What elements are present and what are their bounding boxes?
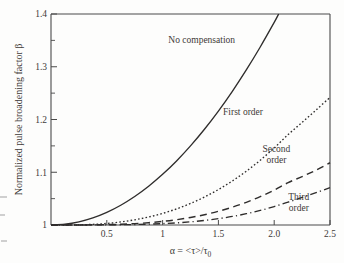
x-axis-title: α = <τ>/τ0: [170, 245, 212, 259]
line-chart: 11.11.21.31.4 0.511.52.02.5 No compensat…: [0, 0, 344, 263]
curve-no-compensation: [51, 14, 279, 225]
tick-label: 1.2: [35, 115, 47, 125]
tick-label: 1: [42, 220, 47, 230]
y-axis-major-ticks: [51, 14, 57, 225]
tick-label: 1.3: [35, 62, 47, 72]
figure-container: 11.11.21.31.4 0.511.52.02.5 No compensat…: [0, 0, 344, 263]
tick-label: 2.0: [268, 229, 280, 239]
curve-label-second-order-line2: order: [266, 155, 287, 165]
y-axis-title: Normalized pulse broadening factor β: [13, 44, 24, 196]
tick-label: 1.4: [35, 9, 47, 19]
curve-label-second-order-line1: Second: [262, 144, 290, 154]
x-axis-title-main: α = <τ>/τ: [170, 245, 208, 256]
tick-label: 0.5: [101, 229, 113, 239]
tick-label: 2.5: [324, 229, 336, 239]
curve-label-third-order-line2: order: [289, 203, 310, 213]
x-axis-tick-labels: 0.511.52.02.5: [101, 229, 336, 239]
curve-label-no-compensation: No compensation: [168, 35, 235, 45]
tick-label: 1.1: [35, 168, 47, 178]
curve-label-third-order-line1: Third: [288, 192, 309, 202]
tick-label: 1: [160, 229, 165, 239]
x-axis-title-subscript: 0: [208, 250, 212, 259]
tick-label: 1.5: [212, 229, 224, 239]
y-axis-tick-labels: 11.11.21.31.4: [35, 9, 47, 230]
curve-label-first-order: First order: [223, 107, 264, 117]
